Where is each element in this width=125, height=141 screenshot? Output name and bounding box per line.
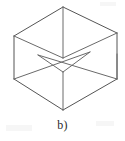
figure-container: b) [0, 0, 125, 141]
figure-caption: b) [0, 118, 125, 132]
